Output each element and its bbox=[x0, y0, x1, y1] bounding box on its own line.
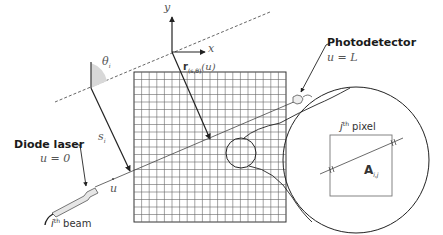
laser-beam bbox=[95, 101, 296, 187]
photodetector-callout bbox=[301, 43, 330, 92]
pixel-text: pixel bbox=[349, 121, 376, 132]
s-vector-arrow bbox=[91, 88, 130, 171]
r-argument: (u) bbox=[201, 61, 215, 72]
beam-text: beam bbox=[60, 218, 92, 229]
tomography-diagram: y x r(s,θ)(u) θi si u Diode laser u = 0 … bbox=[0, 0, 443, 235]
u-marker bbox=[112, 178, 114, 180]
r-subscript: (s,θ) bbox=[188, 67, 201, 74]
pixel-label: jth pixel bbox=[340, 121, 376, 132]
A-symbol: A bbox=[364, 163, 373, 177]
r-vector-label: r(s,θ)(u) bbox=[183, 62, 216, 74]
coordinate-axes bbox=[172, 17, 205, 52]
theta-label: θi bbox=[102, 56, 111, 69]
s-subscript: i bbox=[104, 137, 106, 144]
magnifier-connector-bottom bbox=[249, 166, 312, 222]
s-label: si bbox=[98, 131, 106, 144]
projection-axis-dashed bbox=[55, 12, 270, 102]
theta-symbol: θ bbox=[102, 55, 109, 68]
photodetector-label: Photodetector bbox=[327, 37, 416, 48]
magnifier-large-circle bbox=[283, 87, 429, 233]
axis-y-label: y bbox=[164, 2, 170, 13]
A-subscript: i,j bbox=[373, 171, 378, 178]
u-label: u bbox=[110, 183, 117, 194]
pixel-grid bbox=[134, 72, 286, 222]
axis-x-label: x bbox=[208, 43, 214, 54]
photodetector-icon bbox=[293, 95, 312, 104]
magnifier-small-circle bbox=[226, 138, 256, 168]
diode-laser-u-label: u = 0 bbox=[40, 153, 70, 164]
photodetector-u-label: u = L bbox=[327, 52, 358, 63]
A-ij-label: Ai,j bbox=[364, 164, 379, 178]
theta-subscript: i bbox=[109, 62, 111, 69]
diode-laser-label: Diode laser bbox=[14, 139, 84, 150]
beam-label: ith beam bbox=[51, 218, 92, 229]
diode-laser-callout bbox=[78, 145, 86, 186]
